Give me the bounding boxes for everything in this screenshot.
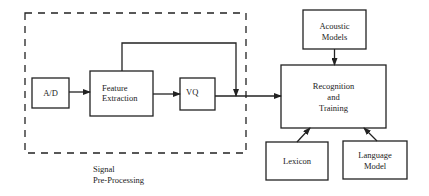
recognition-label-1: Recognition	[313, 81, 355, 91]
arrow-language-to-recognition	[364, 128, 377, 141]
ad-node: A/D	[32, 78, 69, 108]
language-model-label-2: Model	[364, 161, 387, 171]
feature-extraction-label-1: Feature	[102, 83, 128, 93]
vq-label: VQ	[186, 87, 198, 97]
language-model-label-1: Language	[358, 150, 392, 160]
speech-recognition-diagram: A/D Feature Extraction VQ Recognition an…	[0, 0, 429, 196]
recognition-training-node: Recognition and Training	[281, 65, 386, 128]
feature-extraction-label-2: Extraction	[102, 93, 138, 103]
acoustic-models-label-1: Acoustic	[319, 21, 349, 31]
group-caption-line1: Signal	[93, 164, 115, 174]
recognition-label-3: Training	[319, 103, 349, 113]
lexicon-node: Lexicon	[266, 142, 328, 180]
ad-label: A/D	[43, 88, 58, 98]
recognition-label-2: and	[327, 92, 340, 102]
lexicon-label: Lexicon	[283, 156, 312, 166]
acoustic-models-label-2: Models	[322, 32, 348, 42]
group-caption-line2: Pre-Processing	[93, 175, 145, 185]
vq-node: VQ	[180, 78, 215, 110]
acoustic-models-node: Acoustic Models	[303, 10, 366, 49]
language-model-node: Language Model	[343, 141, 407, 179]
arrow-lexicon-to-recognition	[297, 128, 310, 142]
feature-extraction-node: Feature Extraction	[90, 71, 153, 116]
